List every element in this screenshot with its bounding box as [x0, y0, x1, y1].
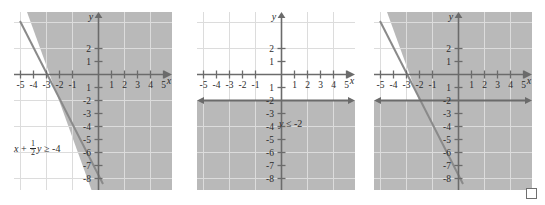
- xtick--3: -3: [403, 80, 411, 90]
- label-1-fraction: 1 2: [30, 140, 36, 157]
- xtick--5: -5: [200, 80, 208, 90]
- xtick-5: 5: [161, 80, 166, 90]
- ytick--4: -4: [83, 122, 91, 132]
- shaded-region-2: [197, 101, 355, 191]
- xtick-1: 1: [292, 80, 297, 90]
- xtick-2: 2: [482, 80, 487, 90]
- plot-area-3: -5 -4 -3 -2 -1 1 2 3 4 5 2 1 1 -2 -3 -4: [374, 12, 532, 190]
- xtick--5: -5: [17, 80, 25, 90]
- ytick-2: 2: [269, 44, 274, 54]
- ytick--5: -5: [443, 135, 451, 145]
- y-axis-label-3: y: [448, 12, 454, 22]
- ytick--7: -7: [443, 161, 451, 171]
- ytick-1: 1: [86, 57, 91, 67]
- ytick-1: 1: [446, 57, 451, 67]
- ytick-2: 2: [446, 44, 451, 54]
- ytick--6: -6: [443, 148, 451, 158]
- xtick--1: -1: [252, 80, 260, 90]
- label-1-y: y: [37, 143, 41, 154]
- xtick-4: 4: [148, 80, 153, 90]
- graph-inequality-system: -5 -4 -3 -2 -1 1 2 3 4 5 2 1 1 -2 -3 -4: [360, 0, 542, 205]
- label-2-y: y: [279, 118, 283, 129]
- ytick--8: -8: [83, 174, 91, 184]
- y-axis-label-2: y: [271, 12, 277, 22]
- ytick--3: -3: [443, 109, 451, 119]
- label-1-relation: ≥: [44, 143, 50, 154]
- x-axis-label-1: x: [166, 75, 172, 86]
- label-2-relation: ≤: [286, 118, 292, 129]
- label-2-rhs: -2: [294, 118, 302, 129]
- xtick--2: -2: [416, 80, 424, 90]
- xtick--5: -5: [377, 80, 385, 90]
- ytick--6: -6: [83, 148, 91, 158]
- y-axis-label-1: y: [88, 12, 94, 22]
- ytick--3: -3: [83, 109, 91, 119]
- ytick--3: -3: [266, 109, 274, 119]
- label-1-x: x: [14, 143, 18, 154]
- ytick--7: -7: [266, 161, 274, 171]
- xtick-5: 5: [344, 80, 349, 90]
- xtick--1: -1: [69, 80, 77, 90]
- ytick--5: -5: [266, 135, 274, 145]
- ytick--2: -2: [83, 96, 91, 106]
- xtick--2: -2: [239, 80, 247, 90]
- inequality-label-1: x + 1 2 y ≥ -4: [14, 140, 60, 157]
- ytick--5: -5: [83, 135, 91, 145]
- ytick-1: 1: [269, 57, 274, 67]
- ytick-2: 2: [86, 44, 91, 54]
- ytick--6: -6: [266, 148, 274, 158]
- plot-svg-1: -5 -4 -3 -2 -1 1 2 3 4 5 2 1 1 -2 -3 -4: [14, 12, 172, 190]
- ytick--8: -8: [266, 174, 274, 184]
- ytick--7: -7: [83, 161, 91, 171]
- ytick--4: -4: [443, 122, 451, 132]
- xtick--3: -3: [43, 80, 51, 90]
- xtick--4: -4: [30, 80, 38, 90]
- xtick-1: 1: [109, 80, 114, 90]
- x-axis-label-2: x: [349, 75, 355, 86]
- xtick-5: 5: [521, 80, 526, 90]
- ytick--8: -8: [443, 174, 451, 184]
- xtick-3: 3: [318, 80, 323, 90]
- inequality-label-2: y ≤ -2: [279, 118, 302, 129]
- xtick--3: -3: [226, 80, 234, 90]
- ytick--2: -2: [443, 96, 451, 106]
- plot-svg-3: -5 -4 -3 -2 -1 1 2 3 4 5 2 1 1 -2 -3 -4: [374, 12, 532, 190]
- inequalities-figure: -5 -4 -3 -2 -1 1 2 3 4 5 2 1 1 -2 -3 -4: [0, 0, 545, 205]
- plot-svg-2: -5 -4 -3 -2 -1 1 2 3 4 5 2 1 1 -2 -3 -4: [197, 12, 355, 190]
- xtick-1: 1: [469, 80, 474, 90]
- plot-area-1: -5 -4 -3 -2 -1 1 2 3 4 5 2 1 1 -2 -3 -4: [14, 12, 172, 190]
- x-axis-label-3: x: [526, 75, 532, 86]
- y-axis-arrow-2: [278, 12, 286, 18]
- xtick--2: -2: [56, 80, 64, 90]
- xtick--4: -4: [390, 80, 398, 90]
- end-of-proof-square-icon: [526, 188, 537, 199]
- ytick--2: -2: [266, 96, 274, 106]
- xtick-3: 3: [495, 80, 500, 90]
- label-1-plus: +: [21, 143, 27, 154]
- label-1-rhs: -4: [52, 143, 60, 154]
- shaded-region-3b: [374, 101, 532, 191]
- graph-inequality-one: -5 -4 -3 -2 -1 1 2 3 4 5 2 1 1 -2 -3 -4: [0, 0, 182, 205]
- label-1-denominator: 2: [30, 149, 36, 157]
- graph-inequality-two: -5 -4 -3 -2 -1 1 2 3 4 5 2 1 1 -2 -3 -4: [183, 0, 365, 205]
- xtick-3: 3: [135, 80, 140, 90]
- xtick-2: 2: [122, 80, 127, 90]
- plot-area-2: -5 -4 -3 -2 -1 1 2 3 4 5 2 1 1 -2 -3 -4: [197, 12, 355, 190]
- xtick-4: 4: [331, 80, 336, 90]
- xtick--4: -4: [213, 80, 221, 90]
- xtick-4: 4: [508, 80, 513, 90]
- ytick--1: 1: [269, 83, 274, 93]
- ytick--4: -4: [266, 122, 274, 132]
- xtick--1: -1: [429, 80, 437, 90]
- ytick--1: 1: [86, 83, 91, 93]
- ytick--1: 1: [446, 83, 451, 93]
- xtick-2: 2: [305, 80, 310, 90]
